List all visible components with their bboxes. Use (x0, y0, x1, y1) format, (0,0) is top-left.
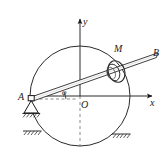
label-point-b: B (153, 48, 159, 58)
label-point-m: M (114, 44, 122, 54)
label-axis-y: y (83, 17, 87, 27)
rod-ab (32, 53, 158, 102)
ground-hatch-upper-left (23, 114, 40, 118)
label-angle-phi: φ (62, 89, 66, 97)
label-axis-x: x (150, 98, 154, 108)
ground-hatch-lower-left (23, 131, 42, 135)
label-point-a: A (18, 92, 24, 102)
ground-hatch-right (112, 134, 131, 138)
mechanism-diagram: A B M O x y φ (0, 0, 166, 161)
label-origin: O (81, 100, 88, 110)
